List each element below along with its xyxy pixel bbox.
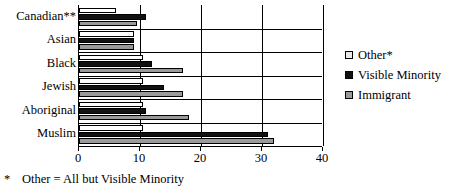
light-swatch <box>345 51 353 59</box>
legend-item-2: Immigrant <box>345 88 453 102</box>
bar <box>79 14 146 20</box>
legend-item-label: Other* <box>358 49 393 62</box>
bar <box>79 21 137 27</box>
bar <box>79 44 134 50</box>
bar <box>79 108 146 114</box>
bar-group <box>79 29 322 53</box>
y-axis-label-1: Asian <box>2 33 76 46</box>
legend-item-label: Visible Minority <box>358 69 441 82</box>
legend-item-1: Visible Minority <box>345 68 453 82</box>
bar <box>79 91 183 97</box>
bar-group <box>79 76 322 100</box>
legend-item-0: Other* <box>345 48 453 62</box>
x-axis-tick-label-3: 30 <box>255 151 268 165</box>
bar <box>79 55 143 61</box>
bar <box>79 85 164 91</box>
legend-item-label: Immigrant <box>358 89 411 102</box>
bar <box>79 68 183 74</box>
gridline-vertical <box>323 5 324 146</box>
plot-area <box>78 5 322 146</box>
x-axis: 010203040 <box>78 146 322 167</box>
x-axis-tick-label-4: 40 <box>316 151 329 165</box>
x-axis-tick-label-2: 20 <box>194 151 207 165</box>
y-axis-label-2: Black <box>2 57 76 70</box>
bar <box>79 31 134 37</box>
y-axis-label-5: Muslim <box>2 127 76 140</box>
bar <box>79 115 189 121</box>
bar-group <box>79 99 322 123</box>
black-swatch <box>345 71 353 79</box>
chart-legend: Other*Visible MinorityImmigrant <box>345 48 453 108</box>
bar <box>79 8 116 14</box>
bar <box>79 61 152 67</box>
y-axis-label-0: Canadian** <box>2 10 76 23</box>
bar <box>79 38 134 44</box>
bar-group <box>79 52 322 76</box>
footnote-marker: * <box>4 172 22 186</box>
bar-group <box>79 123 322 147</box>
x-axis-tick-label-1: 10 <box>133 151 146 165</box>
bar <box>79 78 143 84</box>
y-axis-label-4: Aboriginal <box>2 104 76 117</box>
y-axis-label-3: Jewish <box>2 80 76 93</box>
gray-swatch <box>345 91 353 99</box>
bar-group <box>79 5 322 29</box>
bar <box>79 138 274 144</box>
bar-chart-figure: Canadian**AsianBlackJewishAboriginalMusl… <box>0 0 453 196</box>
footnote: * Other = All but Visible Minority <box>4 172 334 186</box>
bar <box>79 132 268 138</box>
footnote-text: Other = All but Visible Minority <box>22 172 184 186</box>
bar <box>79 125 143 131</box>
bar <box>79 102 143 108</box>
y-axis-category-labels: Canadian**AsianBlackJewishAboriginalMusl… <box>0 5 76 146</box>
x-axis-tick-label-0: 0 <box>75 151 81 165</box>
